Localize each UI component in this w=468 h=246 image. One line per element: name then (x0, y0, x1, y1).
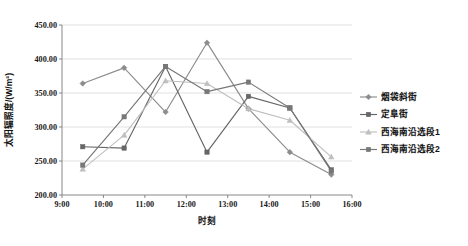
data-point-marker (366, 112, 370, 116)
data-point-marker (163, 64, 167, 68)
legend-label-3: 西海南沿选段2 (381, 143, 440, 154)
x-tick-label: 10:00 (94, 200, 113, 209)
y-tick-label: 400.00 (34, 55, 57, 64)
y-tick-label: 300.00 (34, 123, 57, 132)
x-axis-title: 时刻 (198, 215, 216, 226)
legend-label-2: 西海南沿选段1 (381, 126, 440, 137)
x-tick-label: 15:00 (301, 200, 320, 209)
data-point-marker (81, 163, 85, 167)
data-point-marker (366, 147, 370, 151)
data-point-marker (288, 106, 292, 110)
y-tick-label: 350.00 (34, 89, 57, 98)
x-tick-label: 14:00 (260, 200, 279, 209)
data-point-marker (205, 89, 209, 93)
y-tick-label: 200.00 (34, 191, 57, 200)
x-tick-label: 16:00 (342, 200, 361, 209)
legend-label-1: 定阜街 (381, 108, 408, 119)
data-point-marker (205, 150, 209, 154)
data-point-marker (246, 80, 250, 84)
x-tick-label: 12:00 (177, 200, 196, 209)
data-point-marker (122, 146, 126, 150)
data-point-marker (81, 145, 85, 149)
data-point-marker (246, 94, 250, 98)
y-tick-label: 250.00 (34, 157, 57, 166)
chart-canvas: 200.00250.00300.00350.00400.00450.00 9:0… (0, 0, 468, 246)
x-tick-label: 9:00 (54, 200, 69, 209)
data-point-marker (122, 115, 126, 119)
legend-label-0: 烟袋斜街 (381, 91, 417, 102)
y-tick-label: 450.00 (34, 21, 57, 30)
solar-irradiance-line-chart: 200.00250.00300.00350.00400.00450.00 9:0… (0, 0, 468, 246)
x-tick-label: 11:00 (136, 200, 155, 209)
chart-background (0, 0, 468, 246)
data-point-marker (329, 169, 333, 173)
x-tick-label: 13:00 (218, 200, 237, 209)
y-axis-title: 太阳辐照度/(W/m²) (3, 73, 14, 147)
